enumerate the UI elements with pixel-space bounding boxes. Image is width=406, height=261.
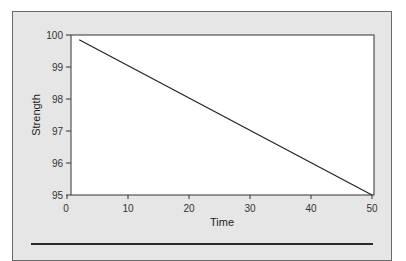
bottom-divider: [31, 243, 373, 245]
y-tick-label: 95: [52, 190, 64, 201]
y-tick-label: 99: [52, 62, 64, 73]
y-axis-title: Strength: [30, 94, 42, 136]
x-tick-label: 50: [366, 203, 378, 214]
y-tick-label: 100: [46, 30, 63, 41]
x-tick-label: 20: [183, 203, 195, 214]
x-tick-label: 0: [63, 203, 69, 214]
y-axis: 100 99 98 97 96 95 Strength: [30, 30, 71, 201]
x-axis: 0 10 20 30 40 50 Time: [63, 195, 378, 228]
y-tick-label: 97: [52, 126, 64, 137]
x-tick-label: 40: [305, 203, 317, 214]
x-axis-title: Time: [210, 216, 234, 228]
y-tick-label: 96: [52, 158, 64, 169]
y-tick-label: 98: [52, 94, 64, 105]
x-tick-label: 10: [122, 203, 134, 214]
x-tick-label: 30: [244, 203, 256, 214]
